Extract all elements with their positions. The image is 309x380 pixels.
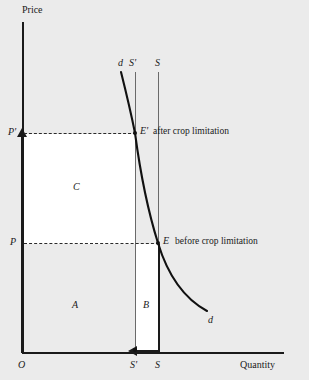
x-tick-s: S xyxy=(155,360,160,370)
region-label-a: A xyxy=(72,300,78,310)
region-label-b: B xyxy=(143,300,149,310)
y-tick-p-prime: P' xyxy=(8,127,16,137)
curve-label-demand-end: d xyxy=(208,315,213,325)
x-tick-s-prime: S' xyxy=(130,360,137,370)
y-tick-p: P xyxy=(10,237,16,247)
quantity-axis-label: Quantity xyxy=(240,360,275,370)
equilibrium-point-e-prime xyxy=(133,131,137,135)
equilibrium-point-e xyxy=(156,241,160,245)
equilibrium-caption-after: after crop limitation xyxy=(153,127,229,137)
price-axis-label: Price xyxy=(22,5,43,15)
supply-demand-figure: Price Quantity O S' S d S' S d P' P E' a… xyxy=(0,0,309,380)
region-label-c: C xyxy=(73,182,80,192)
equilibrium-label-e-prime: E' xyxy=(140,126,148,136)
equilibrium-label-e: E xyxy=(163,236,169,246)
origin-label: O xyxy=(18,360,25,370)
curve-label-demand: d xyxy=(118,58,123,68)
quantity-marker-s-prime xyxy=(133,348,137,352)
curve-label-supply-restricted: S' xyxy=(129,58,136,68)
curve-label-supply-original: S xyxy=(155,58,160,68)
equilibrium-caption-before: before crop limitation xyxy=(175,237,258,247)
